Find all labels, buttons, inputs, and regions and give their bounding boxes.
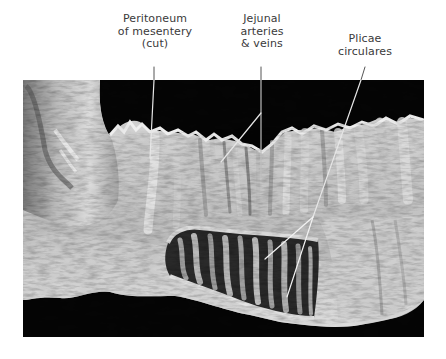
label-plicae-circulares: Plicae circulares (320, 33, 410, 58)
label-jejunal-arteries-veins: Jejunal arteries & veins (222, 13, 302, 51)
label-line: (cut) (105, 38, 205, 51)
anatomy-figure: Peritoneum of mesentery (cut) Jejunal ar… (0, 0, 446, 359)
label-line: Plicae (320, 33, 410, 46)
label-line: Jejunal (222, 13, 302, 26)
label-peritoneum-of-mesentery: Peritoneum of mesentery (cut) (105, 13, 205, 51)
label-line: & veins (222, 38, 302, 51)
label-line: Peritoneum (105, 13, 205, 26)
label-line: circulares (320, 46, 410, 59)
